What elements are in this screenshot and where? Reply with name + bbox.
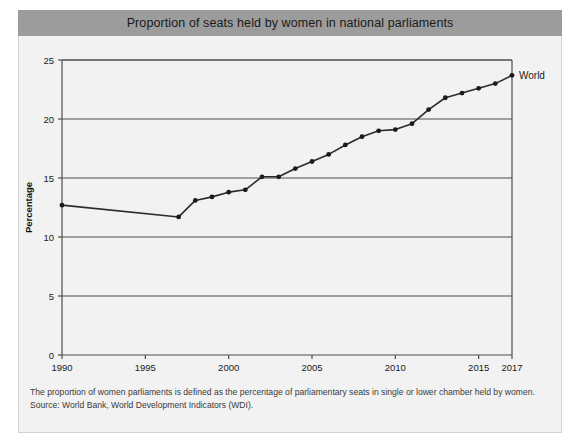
y-tick-label: 5 xyxy=(49,291,54,302)
data-point xyxy=(293,166,298,171)
x-tick-labels-group: 1990199520002005201020152017 xyxy=(51,355,522,373)
data-point xyxy=(310,159,315,164)
data-point xyxy=(426,107,431,112)
line-chart-svg: 0510152025 1990199520002005201020152017 … xyxy=(0,0,580,445)
footnote-definition: The proportion of women parliaments is d… xyxy=(30,386,530,399)
data-markers-group xyxy=(60,73,515,219)
y-tick-label: 10 xyxy=(43,232,54,243)
plot-area: 0510152025 1990199520002005201020152017 … xyxy=(0,0,580,445)
data-point xyxy=(326,152,331,157)
y-tick-label: 0 xyxy=(49,350,54,361)
footnotes: The proportion of women parliaments is d… xyxy=(30,386,530,412)
x-tick-label: 1995 xyxy=(135,362,156,373)
data-point xyxy=(393,127,398,132)
data-point xyxy=(243,187,248,192)
series-label-world: World xyxy=(519,70,545,81)
y-tick-label: 15 xyxy=(43,173,54,184)
axes-group xyxy=(62,60,512,355)
data-point xyxy=(493,81,498,86)
data-point xyxy=(176,215,181,220)
data-point xyxy=(476,86,481,91)
data-point xyxy=(460,91,465,96)
data-point xyxy=(60,203,65,208)
data-point xyxy=(510,73,515,78)
y-tick-label: 20 xyxy=(43,114,54,125)
data-point xyxy=(260,174,265,179)
y-tick-labels-group: 0510152025 xyxy=(43,55,62,361)
data-point xyxy=(276,174,281,179)
x-tick-label: 1990 xyxy=(51,362,72,373)
data-point xyxy=(226,190,231,195)
data-point xyxy=(343,143,348,148)
data-point xyxy=(443,95,448,100)
data-point xyxy=(210,194,215,199)
data-point xyxy=(193,198,198,203)
series-label-group: World xyxy=(519,70,545,81)
data-point xyxy=(376,128,381,133)
x-tick-label: 2017 xyxy=(501,362,522,373)
gridlines-group xyxy=(62,60,512,296)
footnote-source: Source: World Bank, World Development In… xyxy=(30,399,530,412)
y-tick-label: 25 xyxy=(43,55,54,66)
x-tick-label: 2010 xyxy=(385,362,406,373)
y-axis-title-group: Percentage xyxy=(23,182,34,233)
y-axis-title: Percentage xyxy=(23,182,34,233)
x-tick-label: 2000 xyxy=(218,362,239,373)
data-point xyxy=(360,134,365,139)
screenshot-root: Proportion of seats held by women in nat… xyxy=(0,0,580,445)
data-point xyxy=(410,121,415,126)
x-tick-label: 2005 xyxy=(301,362,322,373)
x-tick-label: 2015 xyxy=(468,362,489,373)
